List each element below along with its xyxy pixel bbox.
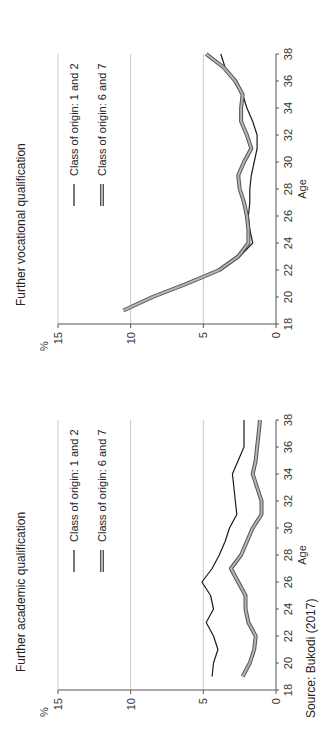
x-tick-label: 20 (282, 291, 294, 303)
x-tick-label: 22 (282, 630, 294, 642)
x-tick-label: 36 (282, 441, 294, 453)
x-tick-label: 28 (282, 183, 294, 195)
x-tick-label: 26 (282, 210, 294, 222)
x-axis-label: Age (296, 545, 308, 565)
x-tick-label: 34 (282, 468, 294, 480)
series-line-outline (123, 54, 251, 311)
legend-label: Class of origin: 6 and 7 (96, 429, 108, 542)
y-axis-label: % (38, 707, 50, 717)
x-tick-label: 18 (282, 684, 294, 696)
x-tick-label: 34 (282, 102, 294, 114)
legend-label: Class of origin: 1 and 2 (68, 429, 80, 542)
x-tick-label: 22 (282, 264, 294, 276)
x-tick-label: 26 (282, 576, 294, 588)
legend-label: Class of origin: 6 and 7 (96, 63, 108, 176)
academic-chart-panel: Further academic qualification 051015%18… (0, 366, 335, 732)
y-tick-label: 0 (270, 698, 282, 704)
figure: Further academic qualification 051015%18… (0, 0, 335, 732)
y-tick-label: 5 (197, 698, 209, 704)
x-tick-label: 24 (282, 603, 294, 615)
x-tick-label: 30 (282, 522, 294, 534)
x-tick-label: 30 (282, 156, 294, 168)
source-note: Source: Bukodi (2017) (304, 599, 318, 718)
chart-title: Further vocational qualification (14, 143, 28, 306)
y-tick-label: 10 (125, 698, 137, 710)
y-tick-label: 15 (52, 698, 64, 710)
x-tick-label: 24 (282, 237, 294, 249)
x-tick-label: 38 (282, 48, 294, 60)
y-tick-label: 0 (270, 332, 282, 338)
vocational-chart-panel: Further vocational qualification 051015%… (0, 0, 335, 366)
x-axis-label: Age (296, 179, 308, 199)
y-axis-label: % (38, 341, 50, 351)
x-tick-label: 32 (282, 495, 294, 507)
x-tick-label: 20 (282, 657, 294, 669)
y-tick-label: 5 (197, 332, 209, 338)
series-line-class-1-2 (202, 420, 244, 677)
x-tick-label: 38 (282, 414, 294, 426)
y-tick-label: 10 (125, 332, 137, 344)
x-tick-label: 36 (282, 75, 294, 87)
x-tick-label: 18 (282, 318, 294, 330)
academic-line-chart: 051015%1820222426283032343638AgeClass of… (0, 366, 335, 732)
chart-title: Further academic qualification (14, 512, 28, 672)
vocational-line-chart: 051015%1820222426283032343638AgeClass of… (0, 0, 335, 366)
x-tick-label: 28 (282, 549, 294, 561)
legend-label: Class of origin: 1 and 2 (68, 63, 80, 176)
x-tick-label: 32 (282, 129, 294, 141)
y-tick-label: 15 (52, 332, 64, 344)
series-line-class-6-7 (123, 54, 251, 311)
